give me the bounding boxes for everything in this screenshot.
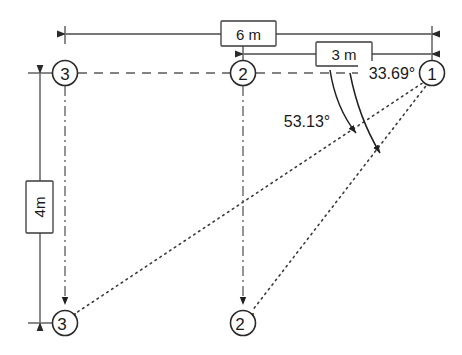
node-3-prime[interactable]: 3 ' (53, 309, 78, 336)
node-2-prime[interactable]: 2 ' (231, 309, 256, 336)
mechanism-diagram: 6 m 3 m 4m (0, 0, 462, 355)
ray-1-to-3prime (76, 80, 427, 313)
dimension-4m: 4m (26, 74, 53, 322)
diagram-canvas: 6 m 3 m 4m (0, 0, 462, 355)
dimension-3m-label: 3 m (331, 46, 356, 63)
node-3[interactable]: 3 (53, 61, 78, 86)
angle-label-33-69: 33.69° (369, 65, 415, 82)
vertical-paths (65, 86, 243, 305)
rays-from-node-1 (76, 80, 429, 313)
dimension-6m-label: 6 m (236, 26, 261, 43)
node-1-label: 1 (427, 65, 436, 84)
dimension-4m-label: 4m (31, 197, 48, 218)
node-2-prime-mark: ' (252, 309, 255, 326)
angle-label-53-13: 53.13° (284, 113, 330, 130)
node-3-label: 3 (60, 65, 69, 84)
node-1[interactable]: 1 (420, 61, 445, 86)
node-3-prime-label: 3 (57, 315, 66, 334)
ray-1-to-2prime (252, 82, 429, 311)
node-2-label: 2 (238, 65, 247, 84)
angle-arc-33-69 (330, 70, 356, 133)
node-3-prime-mark: ' (74, 309, 77, 326)
node-2-prime-label: 2 (235, 315, 244, 334)
dimension-6m: 6 m (66, 21, 431, 46)
node-2[interactable]: 2 (231, 61, 256, 86)
angle-arc-53-13 (350, 73, 380, 153)
